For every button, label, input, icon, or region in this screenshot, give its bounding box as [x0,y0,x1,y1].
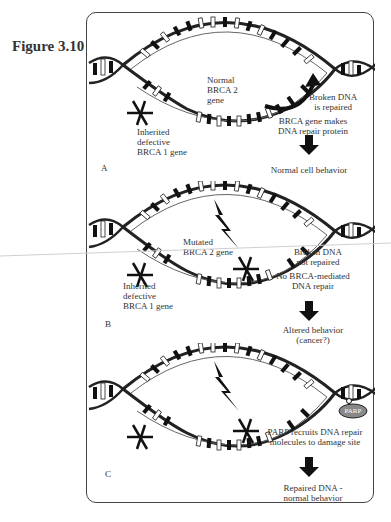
x-mark-icon [233,419,259,443]
outcome-text: Altered behavior (cancer?) [263,325,363,345]
panel-a: Inherited defective BRCA 1 gene Normal B… [87,13,373,175]
figure-label: Figure 3.10 [12,38,84,55]
parp-label: PARP [339,406,367,416]
brca1-annotation: Inherited defective BRCA 1 gene [137,127,187,157]
panel-label-c: C [105,469,111,479]
lightning-bolt-icon [214,361,239,411]
broken-dna-text: Broken DNA not repaired [273,247,363,267]
panel-b: Inherited defective BRCA 1 gene Mutated … [87,181,373,341]
outcome-text: Repaired DNA - normal behavior [263,483,363,503]
down-arrow-icon [299,301,319,321]
brca1-annotation: Inherited defective BRCA 1 gene [123,281,173,311]
x-mark-icon [127,425,153,449]
dna-helix-diagram [87,343,375,503]
broken-dna-text: Broken DNA is repaired [309,92,357,112]
brca2-annotation: Normal BRCA 2 gene [207,75,238,105]
panel-c: PARP PARP recruits DNA repair molecules … [87,343,373,503]
outcome-text: Normal cell behavior [259,165,359,175]
upper-strand-rungs [140,17,314,64]
brca2-annotation: Mutated BRCA 2 gene [183,237,233,257]
no-repair-text: No BRCA-mediated DNA repair [263,271,363,291]
repair-protein-text: BRCA gene makes DNA repair protein [263,116,363,136]
figure-frame: Inherited defective BRCA 1 gene Normal B… [86,12,374,503]
down-arrow-icon [299,135,319,155]
panel-label-b: B [105,319,111,329]
panel-label-a: A [101,163,108,173]
parp-recruits-text: PARP recruits DNA repair molecules to da… [259,427,371,447]
x-mark-icon [233,257,259,281]
down-arrow-icon [299,457,319,477]
x-mark-icon [127,101,153,125]
